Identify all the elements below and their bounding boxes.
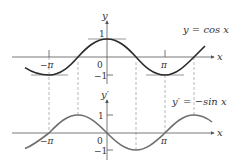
top-tick-zero: 0 bbox=[97, 60, 103, 70]
top-graph: y x 1 0 −1 −π π y = cos x bbox=[12, 10, 229, 84]
bottom-tick-pi: π bbox=[160, 136, 168, 146]
bottom-y-axis-label: y′ bbox=[100, 89, 110, 100]
bottom-tick-zero: 0 bbox=[97, 136, 103, 146]
bottom-x-axis-label: x bbox=[217, 127, 223, 138]
top-tick-one: 1 bbox=[99, 29, 105, 39]
bottom-graph: y′ x 1 0 −1 −π π y′ = −sin x bbox=[12, 89, 227, 160]
bottom-tick-neg-one: −1 bbox=[94, 146, 107, 156]
top-x-axis-label: x bbox=[217, 51, 223, 62]
top-tick-neg-pi: −π bbox=[40, 60, 55, 70]
bottom-tick-one: 1 bbox=[98, 111, 104, 121]
top-tick-neg-one: −1 bbox=[94, 71, 107, 81]
bottom-equation-label: y′ = −sin x bbox=[171, 96, 227, 107]
bottom-tick-neg-pi: −π bbox=[40, 136, 55, 146]
derivative-of-cosine-diagram: y x 1 0 −1 −π π y = cos x y′ x 1 0 −1 −π… bbox=[0, 0, 240, 163]
top-y-axis-label: y bbox=[101, 10, 108, 21]
top-tick-pi: π bbox=[160, 60, 168, 70]
top-equation-label: y = cos x bbox=[182, 24, 229, 35]
